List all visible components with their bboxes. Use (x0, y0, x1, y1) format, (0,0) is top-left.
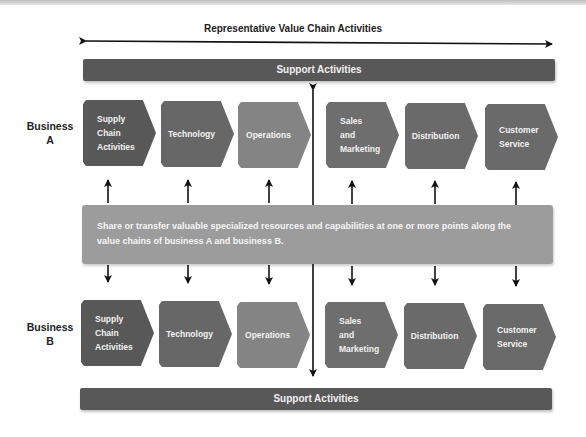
support-activities-bar-top: Support Activities (83, 59, 555, 81)
shared-resources-panel: Share or transfer valuable specialized r… (82, 205, 553, 264)
business-a-label-line2: A (15, 133, 85, 147)
activity-a-supply-chain: Supply Chain Activities (83, 100, 156, 166)
activity-b-distribution: Distribution (404, 303, 477, 369)
value-chain-span-arrow (86, 41, 552, 44)
business-b-label-line2: B (15, 334, 85, 348)
business-a-label-line1: Business (15, 119, 85, 133)
activity-label: Supply Chain Activities (83, 112, 151, 154)
activity-label: Distribution (404, 329, 477, 343)
business-b-label: Business B (15, 320, 85, 348)
activity-b-sales-marketing: Sales and Marketing (325, 302, 398, 368)
shared-resources-text: Share or transfer valuable specialized r… (97, 219, 533, 249)
activity-label: Customer Service (483, 323, 553, 351)
activity-label: Sales and Marketing (326, 114, 396, 156)
activity-label: Sales and Marketing (325, 314, 395, 356)
activity-label: Technology (161, 127, 234, 141)
activity-b-supply-chain: Supply Chain Activities (81, 300, 154, 366)
activity-a-technology: Technology (161, 101, 234, 167)
activity-b-customer-service: Customer Service (483, 304, 556, 370)
activity-label: Customer Service (485, 123, 555, 151)
activity-a-customer-service: Customer Service (485, 104, 558, 170)
activity-a-sales-marketing: Sales and Marketing (326, 102, 399, 168)
activity-label: Technology (159, 327, 232, 341)
activity-label: Operations (238, 128, 311, 142)
activity-b-technology: Technology (159, 301, 232, 367)
activity-b-operations: Operations (237, 302, 310, 368)
support-activities-bar-bottom: Support Activities (80, 388, 552, 410)
activity-label: Operations (237, 328, 310, 342)
activity-a-distribution: Distribution (405, 103, 478, 169)
activity-label: Supply Chain Activities (81, 312, 149, 354)
activity-label: Distribution (405, 129, 478, 143)
activity-a-operations: Operations (238, 102, 311, 168)
business-a-label: Business A (15, 119, 85, 147)
business-b-label-line1: Business (15, 320, 85, 334)
